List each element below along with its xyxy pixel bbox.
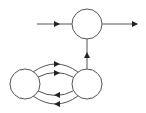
node-top bbox=[72, 9, 102, 39]
output-arrow bbox=[102, 21, 138, 27]
backward-arc-outer bbox=[33, 96, 78, 107]
node-bottom-left bbox=[10, 69, 40, 99]
state-diagram bbox=[0, 0, 146, 113]
backward-arc-inner bbox=[38, 91, 73, 98]
forward-arc-outer bbox=[33, 61, 78, 72]
arrowhead-icon bbox=[84, 52, 90, 58]
feedback-arrow bbox=[84, 39, 90, 69]
input-arrow bbox=[37, 21, 72, 27]
arrowhead-icon bbox=[132, 21, 138, 27]
forward-arc-inner bbox=[38, 70, 73, 77]
arrowhead-icon bbox=[54, 101, 60, 107]
node-bottom-right bbox=[72, 69, 102, 99]
arrowhead-icon bbox=[54, 21, 60, 27]
arrowhead-icon bbox=[54, 70, 60, 76]
arrowhead-icon bbox=[54, 92, 60, 98]
arrowhead-icon bbox=[54, 61, 60, 67]
